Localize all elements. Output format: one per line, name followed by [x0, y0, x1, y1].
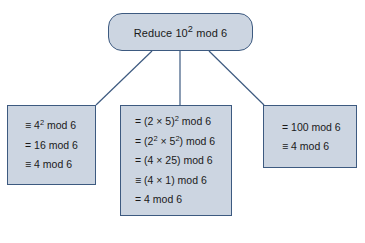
branch-box-right: = 100 mod 6 ≡ 4 mod 6 — [263, 105, 357, 168]
branch-left-line-3: ≡ 4 mod 6 — [8, 155, 95, 175]
root-node-label: Reduce 102 mod 6 — [134, 25, 228, 39]
branch-middle-line-4: ≡ (4 × 1) mod 6 — [121, 170, 231, 190]
connector-root-to-left — [96, 51, 152, 105]
branch-middle-line-3: = (4 × 25) mod 6 — [121, 151, 231, 171]
root-node: Reduce 102 mod 6 — [108, 13, 253, 51]
connector-root-to-right — [209, 51, 264, 105]
branch-middle-line-1: = (2 × 5)2 mod 6 — [121, 112, 231, 132]
modular-arithmetic-diagram: Reduce 102 mod 6 ≡ 42 mod 6 = 16 mod 6 ≡… — [0, 0, 365, 243]
branch-box-left: ≡ 42 mod 6 = 16 mod 6 ≡ 4 mod 6 — [7, 105, 96, 185]
branch-left-line-2: = 16 mod 6 — [8, 135, 95, 155]
branch-right-line-1: = 100 mod 6 — [264, 117, 356, 137]
branch-box-middle: = (2 × 5)2 mod 6 = (22 × 52) mod 6 = (4 … — [120, 105, 232, 216]
branch-right-line-2: ≡ 4 mod 6 — [264, 137, 356, 157]
branch-left-line-1: ≡ 42 mod 6 — [8, 116, 95, 136]
branch-middle-line-5: = 4 mod 6 — [121, 190, 231, 210]
branch-middle-line-2: = (22 × 52) mod 6 — [121, 131, 231, 151]
